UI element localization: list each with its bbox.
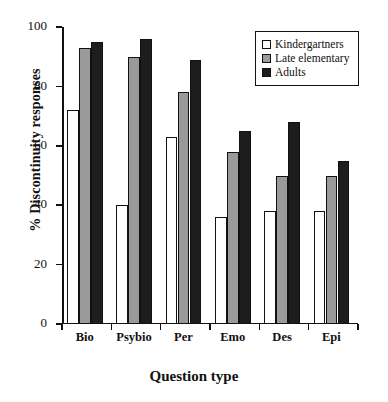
legend-label: Late elementary <box>275 53 349 65</box>
x-tick <box>111 324 113 330</box>
bar <box>215 217 227 324</box>
x-tick-label: Des <box>272 330 291 345</box>
bar <box>276 176 288 325</box>
y-tick-label: 0 <box>41 315 48 331</box>
bar-group <box>210 27 259 324</box>
bar <box>239 131 251 324</box>
legend-label: Kindergartners <box>275 39 344 51</box>
x-tick-label: Bio <box>76 330 94 345</box>
x-tick <box>259 324 261 330</box>
legend-label: Adults <box>275 67 306 79</box>
y-tick-label: 80 <box>34 77 47 93</box>
legend-item: Kindergartners <box>262 38 349 51</box>
x-tick-label: Per <box>174 330 193 345</box>
x-tick <box>160 324 162 330</box>
bar <box>79 48 91 324</box>
bar-group <box>111 27 160 324</box>
legend-swatch <box>262 40 271 49</box>
x-tick-label: Emo <box>220 330 245 345</box>
bar <box>326 176 338 325</box>
legend-swatch <box>262 68 271 77</box>
bar-group <box>161 27 210 324</box>
bar <box>128 57 140 324</box>
x-tick-label: Psybio <box>116 330 151 345</box>
x-tick <box>308 324 310 330</box>
bar <box>190 60 202 324</box>
bar <box>116 205 128 324</box>
y-tick-label: 100 <box>28 18 48 34</box>
bar <box>227 152 239 324</box>
x-axis-title: Question type <box>0 368 388 385</box>
bar <box>91 42 103 324</box>
bar <box>264 211 276 324</box>
bar-group <box>62 27 111 324</box>
bar <box>166 137 178 324</box>
bar <box>67 110 79 324</box>
legend: KindergartnersLate elementaryAdults <box>255 31 359 86</box>
bar <box>178 92 190 324</box>
bar <box>338 161 350 324</box>
legend-swatch <box>262 54 271 63</box>
x-tick <box>61 324 63 330</box>
bar <box>140 39 152 324</box>
bar <box>288 122 300 324</box>
y-tick-label: 60 <box>34 137 47 153</box>
x-tick <box>209 324 211 330</box>
bar-chart-figure: % Discontinuity responses 020406080100 B… <box>0 0 388 402</box>
legend-item: Late elementary <box>262 52 349 65</box>
y-tick-label: 40 <box>34 196 47 212</box>
legend-item: Adults <box>262 66 349 79</box>
y-tick-label: 20 <box>34 256 47 272</box>
x-tick-label: Epi <box>322 330 341 345</box>
bar <box>314 211 326 324</box>
x-tick <box>357 324 359 330</box>
